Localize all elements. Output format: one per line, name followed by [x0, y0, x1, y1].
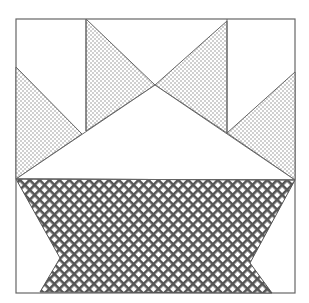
quilt-block-diagram — [0, 0, 309, 303]
basket-crosshatch — [16, 179, 295, 293]
